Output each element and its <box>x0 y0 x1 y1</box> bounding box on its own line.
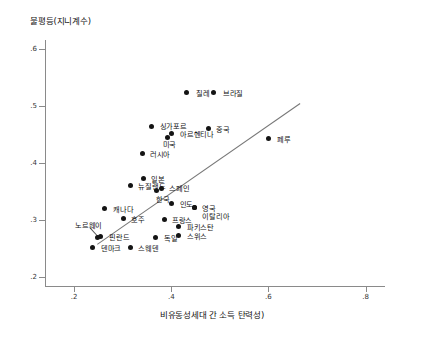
data-point <box>149 124 154 129</box>
point-label: 호주 <box>131 214 145 224</box>
y-tick <box>39 277 45 278</box>
data-point <box>95 235 100 240</box>
data-point <box>159 186 164 191</box>
data-point <box>266 136 271 141</box>
scatter-chart: 불평등(지니계수) .2.3.4.5.6 .2.4.6.8 칠레브라질싱가포르아… <box>0 0 424 339</box>
x-tick-label: .6 <box>258 293 278 301</box>
y-tick-label: .4 <box>13 159 37 167</box>
y-axis-line <box>45 40 46 286</box>
data-point <box>169 201 174 206</box>
x-tick-label: .4 <box>161 293 181 301</box>
data-point <box>192 205 197 210</box>
data-point <box>206 126 211 131</box>
point-label: 한국 <box>156 194 170 204</box>
y-tick-label: .5 <box>13 102 37 110</box>
point-label: 스페인 <box>169 183 189 193</box>
data-point <box>211 90 216 95</box>
y-tick-label: .2 <box>13 273 37 281</box>
data-point <box>90 245 95 250</box>
y-tick <box>39 220 45 221</box>
x-tick-label: .2 <box>64 293 84 301</box>
x-axis-label: 비유동성세대 간 소득 탄력성) <box>0 308 424 320</box>
point-label: 중국 <box>216 124 230 134</box>
y-axis-label: 불평등(지니계수) <box>30 14 91 26</box>
point-label: 칠레 <box>196 88 210 98</box>
x-tick-label: .8 <box>356 293 376 301</box>
point-label: 브라질 <box>223 88 243 98</box>
data-point <box>128 183 133 188</box>
y-tick-label: .6 <box>13 45 37 53</box>
x-tick <box>366 286 367 292</box>
point-label: 노르웨이 <box>75 220 102 230</box>
data-point <box>121 216 126 221</box>
data-point <box>140 151 145 156</box>
point-label: 독일 <box>164 233 178 243</box>
y-tick <box>39 49 45 50</box>
point-label: 캐나다 <box>113 204 133 214</box>
data-point <box>102 206 107 211</box>
data-point <box>154 188 159 193</box>
data-point <box>162 217 167 222</box>
point-label: 페루 <box>277 134 291 144</box>
y-tick <box>39 163 45 164</box>
point-label: 덴마크 <box>101 243 121 253</box>
x-axis-line <box>45 286 385 287</box>
x-tick <box>171 286 172 292</box>
point-label: 스웨덴 <box>138 243 158 253</box>
data-point <box>169 131 174 136</box>
y-tick-label: .3 <box>13 216 37 224</box>
data-point <box>153 235 158 240</box>
data-point <box>128 245 133 250</box>
point-label: 스위스 <box>187 231 207 241</box>
data-point <box>176 224 181 229</box>
point-label: 미국 <box>163 139 177 149</box>
x-tick <box>74 286 75 292</box>
y-tick <box>39 106 45 107</box>
point-label: 핀란드 <box>109 232 129 242</box>
x-tick <box>268 286 269 292</box>
point-label: 러시아 <box>150 149 170 159</box>
data-point <box>184 90 189 95</box>
point-label: 이탈리아 <box>202 211 229 221</box>
